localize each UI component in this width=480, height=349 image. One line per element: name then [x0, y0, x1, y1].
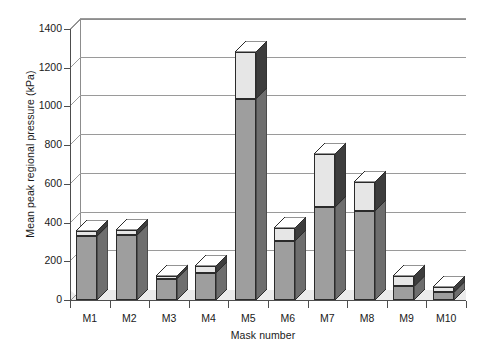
bar-m10-top-face [433, 276, 465, 288]
bar-m8-upper-segment[interactable] [354, 182, 375, 211]
bar-m1-lower-segment[interactable] [76, 236, 97, 300]
bar-m7[interactable] [314, 0, 335, 349]
bar-m9[interactable] [393, 0, 414, 349]
y-tick-label-1000: 1000 [16, 100, 62, 110]
x-tick-label-m4: M4 [187, 312, 231, 324]
bar-m2-side-face [137, 0, 148, 349]
y-axis-line [70, 29, 71, 300]
bar-m5-lower-segment[interactable] [235, 99, 256, 300]
bar-m5-upper-segment[interactable] [235, 52, 256, 98]
y-tick-label-0: 0 [16, 294, 62, 304]
bar-m5-top-face [235, 41, 267, 53]
bar-m3-top-face [156, 265, 188, 277]
bar-m5[interactable] [235, 0, 256, 349]
bar-m7-side-face [335, 0, 346, 349]
bar-m4-side-face [216, 0, 227, 349]
x-tick-6 [308, 301, 309, 308]
x-tick-10 [466, 301, 467, 308]
bar-m8-top-face [354, 171, 386, 183]
chart-figure: 0200400600800100012001400 M1M2M3M4M5M6M7… [0, 0, 480, 349]
y-tick-800 [64, 145, 71, 146]
y-tick-600 [64, 184, 71, 185]
bar-m4-top-face [195, 255, 227, 267]
bar-m9-side-face [414, 0, 425, 349]
x-tick-label-m8: M8 [345, 312, 389, 324]
bar-m1-top-face [76, 220, 108, 232]
y-tick-1000 [64, 106, 71, 107]
x-tick-2 [149, 301, 150, 308]
y-tick-label-200: 200 [16, 255, 62, 265]
x-tick-label-m6: M6 [266, 312, 310, 324]
y-axis-title: Mean peak regional pressure (kPa) [24, 29, 36, 279]
x-tick-4 [228, 301, 229, 308]
x-tick-3 [189, 301, 190, 308]
bar-m6-side-face [295, 0, 306, 349]
x-tick-label-m3: M3 [147, 312, 191, 324]
bar-m4[interactable] [195, 0, 216, 349]
bar-m6[interactable] [274, 0, 295, 349]
bar-m8-lower-segment[interactable] [354, 211, 375, 300]
bar-m10-side-face [454, 0, 465, 349]
x-tick-9 [426, 301, 427, 308]
bar-m9-upper-segment[interactable] [393, 276, 414, 287]
bar-m2[interactable] [116, 0, 137, 349]
x-tick-label-m1: M1 [68, 312, 112, 324]
x-tick-label-m2: M2 [107, 312, 151, 324]
y-tick-label-1200: 1200 [16, 62, 62, 72]
y-tick-1400 [64, 29, 71, 30]
bar-m10[interactable] [433, 0, 454, 349]
bar-m3-lower-segment[interactable] [156, 279, 177, 300]
y-tick-label-1400: 1400 [16, 23, 62, 33]
x-tick-0 [70, 301, 71, 308]
y-tick-1200 [64, 68, 71, 69]
x-tick-label-m5: M5 [226, 312, 270, 324]
bar-m3-side-face [177, 0, 188, 349]
x-tick-5 [268, 301, 269, 308]
y-tick-label-600: 600 [16, 178, 62, 188]
x-tick-label-m10: M10 [424, 312, 468, 324]
x-tick-label-m9: M9 [385, 312, 429, 324]
y-tick-label-800: 800 [16, 139, 62, 149]
bar-m2-lower-segment[interactable] [116, 235, 137, 300]
bar-m1[interactable] [76, 0, 97, 349]
bar-m10-lower-segment[interactable] [433, 292, 454, 300]
bar-m7-upper-segment[interactable] [314, 154, 335, 207]
bar-m8[interactable] [354, 0, 375, 349]
x-tick-8 [387, 301, 388, 308]
bar-m9-top-face [393, 265, 425, 277]
bar-m7-top-face [314, 143, 346, 155]
x-tick-7 [347, 301, 348, 308]
y-tick-label-400: 400 [16, 217, 62, 227]
plot-area: 0200400600800100012001400 M1M2M3M4M5M6M7… [0, 0, 480, 349]
bar-m2-top-face [116, 219, 148, 231]
bar-m6-lower-segment[interactable] [274, 241, 295, 300]
x-tick-1 [110, 301, 111, 308]
x-axis-title: Mask number [60, 329, 466, 341]
bar-m6-upper-segment[interactable] [274, 228, 295, 241]
y-tick-200 [64, 261, 71, 262]
bar-m1-side-face [97, 0, 108, 349]
bar-m4-lower-segment[interactable] [195, 273, 216, 300]
bar-m9-lower-segment[interactable] [393, 286, 414, 300]
bar-m3[interactable] [156, 0, 177, 349]
bar-m6-top-face [274, 217, 306, 229]
bar-m4-upper-segment[interactable] [195, 266, 216, 273]
y-tick-400 [64, 223, 71, 224]
x-tick-label-m7: M7 [305, 312, 349, 324]
bar-m7-lower-segment[interactable] [314, 207, 335, 300]
